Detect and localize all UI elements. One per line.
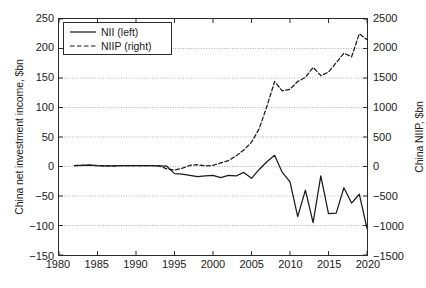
y-tick-label-right: 2500	[369, 13, 419, 24]
y-tick-label-left: 250	[10, 13, 58, 24]
x-tick-label: 2005	[230, 259, 274, 270]
chart-legend: NII (left) NIIP (right)	[63, 22, 172, 55]
x-tick-label: 2010	[269, 259, 313, 270]
legend-line-solid-icon	[69, 27, 97, 37]
x-tick-label: 1985	[75, 259, 119, 270]
y-tick-label-right: 1000	[369, 102, 419, 113]
x-tick-label: 2015	[307, 259, 351, 270]
y-tick-label-right: −1000	[369, 221, 419, 232]
y-tick-label-left: 150	[10, 72, 58, 83]
legend-label-niip: NIIP (right)	[101, 41, 152, 52]
x-tick-label: 2000	[191, 259, 235, 270]
x-tick-label: 1980	[36, 259, 80, 270]
legend-label-nii: NII (left)	[101, 27, 138, 38]
legend-item-nii: NII (left)	[64, 25, 171, 39]
y-tick-label-right: 0	[369, 161, 419, 172]
y-tick-label-left: 0	[10, 161, 58, 172]
x-tick-label: 2020	[346, 259, 390, 270]
y-tick-label-left: 200	[10, 42, 58, 53]
y-tick-label-left: 100	[10, 102, 58, 113]
x-tick-label: 1990	[114, 259, 158, 270]
y-tick-label-left: 50	[10, 132, 58, 143]
data-series-group	[74, 34, 367, 229]
y-tick-label-right: 1500	[369, 72, 419, 83]
y-tick-label-right: −500	[369, 191, 419, 202]
x-tick-label: 1995	[152, 259, 196, 270]
y-tick-label-right: 500	[369, 132, 419, 143]
y-tick-label-left: −50	[10, 191, 58, 202]
legend-line-dashed-icon	[69, 41, 97, 51]
y-tick-label-right: 2000	[369, 42, 419, 53]
y-tick-label-left: −100	[10, 221, 58, 232]
legend-item-niip: NIIP (right)	[64, 39, 171, 53]
